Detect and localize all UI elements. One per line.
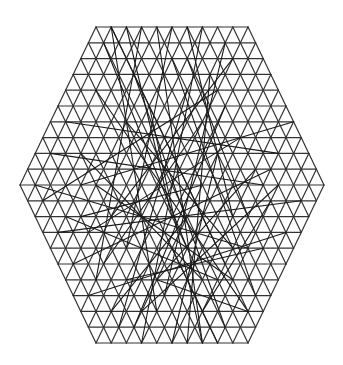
hexagonal-lattice-diagram: [0, 0, 343, 365]
